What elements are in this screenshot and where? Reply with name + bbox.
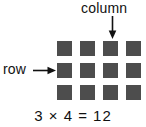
equation-text: 3 × 4 = 12 xyxy=(0,108,146,124)
array-square xyxy=(80,41,95,56)
array-square xyxy=(80,63,95,78)
array-square xyxy=(103,63,118,78)
array-square xyxy=(103,41,118,56)
array-square xyxy=(126,63,141,78)
row-label: row xyxy=(3,62,26,76)
array-square xyxy=(57,63,72,78)
array-square xyxy=(126,41,141,56)
column-label: column xyxy=(81,1,127,15)
array-square xyxy=(57,85,72,100)
array-multiplication-diagram: column row 3 × 4 = 12 xyxy=(0,0,146,127)
array-square xyxy=(103,85,118,100)
arrow-down-icon xyxy=(106,16,119,39)
square-array-grid xyxy=(57,41,141,100)
arrow-right-icon xyxy=(33,64,56,77)
array-square xyxy=(80,85,95,100)
array-square xyxy=(126,85,141,100)
array-square xyxy=(57,41,72,56)
